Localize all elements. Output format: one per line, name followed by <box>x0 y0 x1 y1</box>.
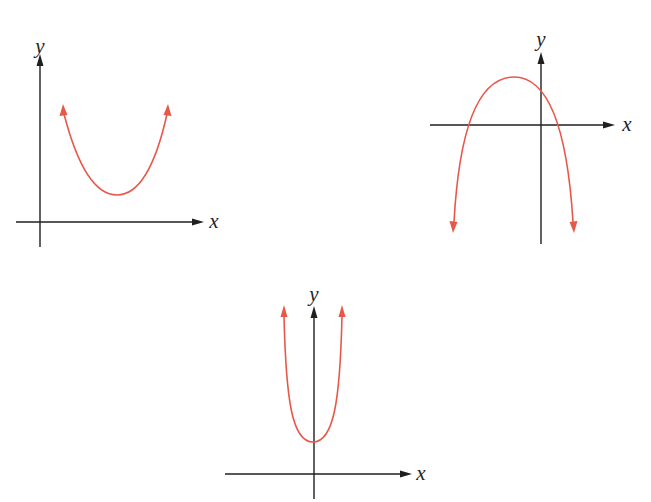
figure-canvas <box>0 0 651 502</box>
curve-arrow-left-icon <box>60 104 68 116</box>
graph-2-x-label: x <box>622 114 631 135</box>
y-axis-arrow-icon <box>311 306 318 318</box>
graph-1 <box>16 54 204 247</box>
curve-arrow-right-icon <box>339 305 346 317</box>
parabola-figure: y x y x y x <box>0 0 651 502</box>
narrow-parabola-curve <box>284 316 342 442</box>
downward-parabola-curve <box>454 77 573 222</box>
graph-1-y-label: y <box>35 36 44 57</box>
graph-2 <box>430 52 615 244</box>
curve-arrow-right-icon <box>164 104 172 116</box>
x-axis-arrow-icon <box>400 471 412 478</box>
curve-arrow-left-icon <box>450 221 458 233</box>
y-axis-arrow-icon <box>538 52 545 64</box>
graph-2-y-label: y <box>536 29 545 50</box>
x-axis-arrow-icon <box>192 219 204 226</box>
x-axis-arrow-icon <box>603 122 615 129</box>
curve-arrow-left-icon <box>281 305 288 317</box>
graph-3 <box>225 305 412 499</box>
graph-3-y-label: y <box>309 284 318 305</box>
graph-1-x-label: x <box>209 211 218 232</box>
upward-parabola-curve <box>64 114 167 195</box>
graph-3-x-label: x <box>416 463 425 484</box>
curve-arrow-right-icon <box>570 221 578 233</box>
